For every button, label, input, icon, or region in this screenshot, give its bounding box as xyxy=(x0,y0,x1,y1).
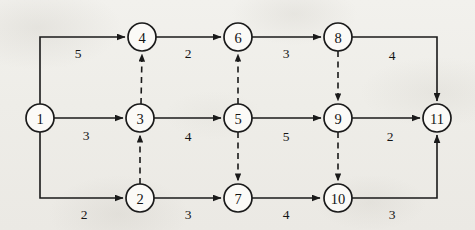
node-5[interactable]: 5 xyxy=(224,104,252,132)
edge-weight-1-3: 3 xyxy=(83,128,90,143)
node-label-4: 4 xyxy=(138,30,146,46)
node-label-10: 10 xyxy=(331,191,346,207)
node-9[interactable]: 9 xyxy=(324,104,352,132)
node-label-8: 8 xyxy=(334,30,341,46)
node-label-3: 3 xyxy=(136,111,143,127)
edge-3-to-4 xyxy=(141,54,142,104)
node-8[interactable]: 8 xyxy=(324,23,352,51)
node-11[interactable]: 11 xyxy=(423,104,451,132)
edge-weight-8-11: 4 xyxy=(389,48,396,63)
node-label-2: 2 xyxy=(136,191,143,207)
node-label-9: 9 xyxy=(334,111,341,127)
edge-weight-1-4: 5 xyxy=(75,46,82,61)
node-2[interactable]: 2 xyxy=(126,184,154,212)
node-6[interactable]: 6 xyxy=(224,23,252,51)
edge-weight-4-6: 2 xyxy=(185,46,192,61)
node-3[interactable]: 3 xyxy=(126,104,154,132)
edge-weight-2-7: 3 xyxy=(185,207,192,222)
node-label-1: 1 xyxy=(36,111,43,127)
edge-weight-10-11: 3 xyxy=(389,207,396,222)
node-7[interactable]: 7 xyxy=(224,184,252,212)
edge-weight-1-2: 2 xyxy=(81,207,88,222)
node-label-11: 11 xyxy=(430,111,444,127)
edge-weight-5-9: 5 xyxy=(283,129,290,144)
node-label-6: 6 xyxy=(234,30,241,46)
node-label-5: 5 xyxy=(234,111,241,127)
network-diagram: 532234452343 1234567891011 xyxy=(0,0,475,230)
edge-weight-3-5: 4 xyxy=(185,129,192,144)
edge-weight-7-10: 4 xyxy=(283,207,290,222)
node-10[interactable]: 10 xyxy=(324,184,352,212)
node-1[interactable]: 1 xyxy=(26,104,54,132)
edge-1-to-4 xyxy=(40,37,125,104)
node-label-7: 7 xyxy=(234,191,241,207)
node-4[interactable]: 4 xyxy=(128,23,156,51)
edge-1-to-2 xyxy=(40,132,123,198)
edge-weight-9-11: 2 xyxy=(387,129,394,144)
edge-weight-6-8: 3 xyxy=(283,46,290,61)
edge-10-to-11 xyxy=(352,135,437,198)
